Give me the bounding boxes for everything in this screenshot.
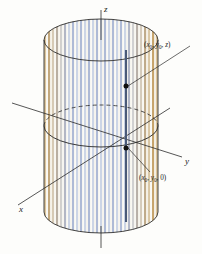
cylinder-coordinate-diagram: z y x (x0, y0, z) (x0, y0, 0): [0, 0, 202, 254]
upper-point-marker: [124, 84, 129, 89]
lower-point-label: (x0, y0, 0): [139, 174, 167, 183]
upper-point-label: (x0, y0, z): [144, 41, 171, 50]
diagram-canvas: z y x (x0, y0, z) (x0, y0, 0): [0, 0, 202, 254]
y-axis-label: y: [184, 156, 189, 166]
z-axis-label: z: [103, 4, 108, 14]
upper-label-close: ): [168, 41, 171, 49]
x-axis-label: x: [18, 204, 23, 214]
lower-label-close: ): [164, 174, 167, 182]
lower-point-marker: [124, 146, 129, 151]
